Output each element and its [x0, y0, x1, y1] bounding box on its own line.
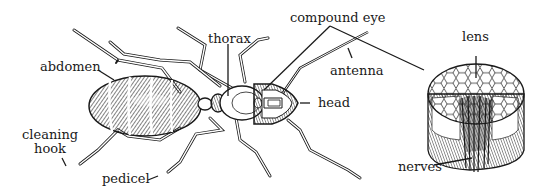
ant-anatomy-diagram: abdomen thorax compound eye antenna head…	[0, 0, 545, 196]
abdomen-drawing	[89, 76, 201, 136]
label-thorax: thorax	[208, 32, 251, 45]
label-nerves: nerves	[398, 160, 442, 173]
label-abdomen: abdomen	[40, 60, 101, 73]
label-head: head	[318, 96, 350, 109]
label-compound-eye: compound eye	[290, 11, 386, 24]
label-lens: lens	[462, 30, 489, 43]
label-pedicel: pedicel	[102, 172, 150, 185]
compound-eye-inset	[428, 64, 524, 172]
label-antenna: antenna	[330, 64, 384, 77]
label-cleaning-hook: cleaning hook	[22, 128, 78, 156]
head-drawing	[254, 84, 298, 124]
